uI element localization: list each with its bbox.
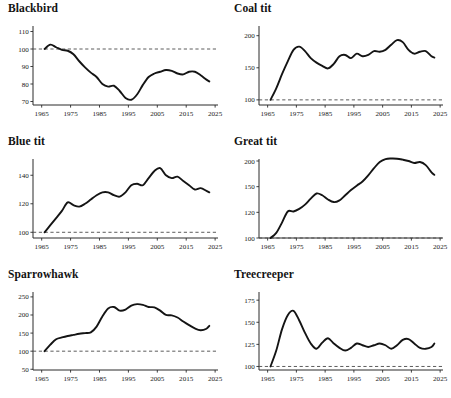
series-line: [271, 311, 435, 367]
y-tick-label: 120: [18, 200, 29, 208]
y-tick-label: 150: [244, 319, 255, 327]
x-tick-label: 1975: [289, 375, 304, 383]
y-tick-label: 200: [18, 311, 29, 319]
plot-great-tit: 1001201502001965197519851995200520152025: [226, 133, 451, 266]
x-tick-label: 1975: [289, 243, 304, 251]
x-tick-label: 1995: [121, 243, 136, 251]
x-tick-label: 2015: [179, 243, 194, 251]
x-tick-label: 1965: [35, 375, 50, 383]
series-line: [271, 40, 435, 100]
y-tick-label: 70: [22, 98, 30, 106]
x-tick-label: 2005: [376, 110, 391, 118]
x-tick-label: 2025: [433, 110, 448, 118]
x-tick-label: 1985: [318, 110, 333, 118]
series-line: [271, 159, 435, 238]
y-tick-label: 125: [244, 341, 255, 349]
x-tick-label: 1985: [92, 375, 107, 383]
x-tick-label: 1975: [63, 243, 78, 251]
plot-treecreeper: 1001251501751965197519851995200520152025: [226, 266, 451, 398]
y-tick-label: 100: [18, 229, 29, 237]
y-tick-label: 110: [18, 28, 29, 36]
x-tick-label: 2005: [150, 243, 165, 251]
series-line: [45, 168, 210, 232]
panel-treecreeper: Treecreeper 1001251501751965197519851995…: [226, 266, 451, 398]
x-tick-label: 2005: [150, 110, 165, 118]
y-tick-label: 100: [244, 96, 255, 104]
panel-sparrowhawk: Sparrowhawk 5010015020025019651975198519…: [0, 266, 226, 398]
x-tick-label: 2025: [208, 110, 223, 118]
y-tick-label: 200: [244, 32, 255, 40]
y-tick-label: 200: [244, 158, 255, 166]
plot-blackbird: 7080901001101965197519851995200520152025: [0, 0, 226, 133]
x-tick-label: 1965: [261, 243, 276, 251]
x-tick-label: 2025: [433, 243, 448, 251]
x-tick-label: 1965: [261, 375, 276, 383]
x-tick-label: 1965: [35, 110, 50, 118]
plot-blue-tit: 1001201401965197519851995200520152025: [0, 133, 226, 266]
y-tick-label: 100: [18, 46, 29, 54]
y-tick-label: 175: [244, 297, 255, 305]
y-tick-label: 100: [244, 363, 255, 371]
x-tick-label: 2015: [179, 110, 194, 118]
x-tick-label: 2025: [208, 243, 223, 251]
x-tick-label: 2005: [376, 243, 391, 251]
x-tick-label: 1995: [121, 110, 136, 118]
plot-coal-tit: 1001502001965197519851995200520152025: [226, 0, 451, 133]
x-tick-label: 1995: [347, 110, 362, 118]
x-tick-label: 1985: [92, 243, 107, 251]
x-tick-label: 1975: [63, 375, 78, 383]
panel-blackbird: Blackbird 708090100110196519751985199520…: [0, 0, 226, 133]
x-tick-label: 2015: [404, 375, 419, 383]
y-tick-label: 150: [244, 64, 255, 72]
x-tick-label: 1985: [318, 375, 333, 383]
x-tick-label: 1975: [63, 110, 78, 118]
x-tick-label: 2015: [179, 375, 194, 383]
x-tick-label: 1995: [347, 243, 362, 251]
x-tick-label: 1995: [121, 375, 136, 383]
x-tick-label: 1975: [289, 110, 304, 118]
x-tick-label: 1995: [347, 375, 362, 383]
x-tick-label: 2025: [433, 375, 448, 383]
x-tick-label: 2015: [404, 110, 419, 118]
y-tick-label: 100: [244, 235, 255, 243]
y-tick-label: 250: [18, 293, 29, 301]
x-tick-label: 2005: [376, 375, 391, 383]
plot-sparrowhawk: 5010015020025019651975198519952005201520…: [0, 266, 226, 398]
panel-blue-tit: Blue tit 1001201401965197519851995200520…: [0, 133, 226, 266]
y-tick-label: 150: [18, 330, 29, 338]
x-tick-label: 2005: [150, 375, 165, 383]
x-tick-label: 2015: [404, 243, 419, 251]
x-tick-label: 1965: [35, 243, 50, 251]
y-tick-label: 100: [18, 348, 29, 356]
y-tick-label: 80: [22, 81, 30, 89]
panel-great-tit: Great tit 100120150200196519751985199520…: [226, 133, 451, 266]
panel-coal-tit: Coal tit 1001502001965197519851995200520…: [226, 0, 451, 133]
chart-grid: Blackbird 708090100110196519751985199520…: [0, 0, 451, 398]
series-line: [45, 304, 210, 351]
series-line: [45, 45, 210, 100]
x-tick-label: 1985: [92, 110, 107, 118]
y-tick-label: 120: [244, 209, 255, 217]
y-tick-label: 90: [22, 63, 30, 71]
x-tick-label: 1985: [318, 243, 333, 251]
x-tick-label: 2025: [208, 375, 223, 383]
y-tick-label: 50: [22, 366, 30, 374]
x-tick-label: 1965: [261, 110, 276, 118]
y-tick-label: 150: [244, 183, 255, 191]
y-tick-label: 140: [18, 172, 29, 180]
